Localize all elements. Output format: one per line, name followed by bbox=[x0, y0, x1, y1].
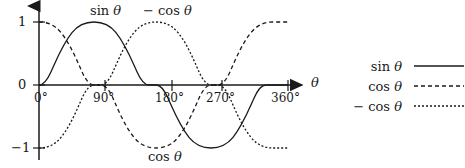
legend-label-sin: sin θ bbox=[340, 59, 402, 74]
y-tick-label-0: 0 bbox=[18, 78, 26, 91]
legend: sin θ cos θ − cos θ bbox=[340, 56, 465, 116]
x-tick-label-90: 90° bbox=[93, 92, 114, 104]
x-tick-label-180: 180° bbox=[155, 92, 184, 104]
legend-label-neg-cos: − cos θ bbox=[340, 99, 402, 114]
legend-swatch-solid bbox=[414, 60, 464, 72]
trigonometric-graph-figure: 1 0 −1 0° 90° 180° 270° 360° θ sin θ − c… bbox=[0, 0, 465, 168]
legend-entry-sin: sin θ bbox=[340, 56, 465, 76]
legend-label-cos: cos θ bbox=[340, 79, 402, 94]
legend-swatch-dashed bbox=[414, 80, 464, 92]
x-tick-label-360: 360° bbox=[271, 92, 300, 104]
x-axis-label: θ bbox=[311, 76, 319, 89]
y-tick-label-1: 1 bbox=[18, 15, 26, 28]
y-tick-label-neg1: −1 bbox=[11, 141, 30, 154]
curve-label-neg-cos: − cos θ bbox=[143, 4, 192, 17]
x-tick-label-270: 270° bbox=[206, 92, 235, 104]
curve-label-cos: cos θ bbox=[148, 150, 182, 163]
legend-entry-neg-cos: − cos θ bbox=[340, 96, 465, 116]
legend-swatch-dotted bbox=[414, 100, 464, 112]
legend-entry-cos: cos θ bbox=[340, 76, 465, 96]
curve-label-sin: sin θ bbox=[90, 4, 121, 17]
x-tick-label-0: 0° bbox=[34, 92, 48, 104]
